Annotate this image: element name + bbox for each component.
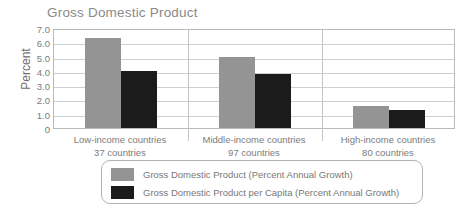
x-category-label: Low-income countries37 countries (53, 133, 187, 159)
bar (85, 38, 121, 128)
y-tick-label: 6.0 (24, 38, 50, 49)
x-category-sublabel: 37 countries (53, 146, 187, 159)
legend-swatch-gdp-per-capita (111, 186, 134, 199)
group-separator (322, 30, 323, 141)
plot-area (53, 29, 455, 129)
y-tick-label: 4.0 (24, 66, 50, 77)
group-separator (188, 30, 189, 141)
x-category-sublabel: 97 countries (187, 146, 321, 159)
y-tick-label: 7.0 (24, 24, 50, 35)
legend-item-gdp-per-capita: Gross Domestic Product per Capita (Perce… (111, 184, 399, 200)
bar (353, 106, 389, 128)
y-tick-label: 1.0 (24, 109, 50, 120)
legend-label-gdp-per-capita: Gross Domestic Product per Capita (Perce… (143, 187, 399, 198)
y-tick-label: 2.0 (24, 95, 50, 106)
bar (255, 74, 291, 128)
legend-swatch-gdp (111, 168, 134, 181)
y-axis-tick-labels: 7.06.05.04.03.02.01.00 (22, 29, 50, 129)
x-category-name: High-income countries (341, 134, 436, 145)
y-tick-label: 5.0 (24, 52, 50, 63)
x-category-name: Middle-income countries (203, 134, 306, 145)
legend-label-gdp: Gross Domestic Product (Percent Annual G… (143, 169, 353, 180)
x-category-label: Middle-income countries97 countries (187, 133, 321, 159)
y-tick-label: 3.0 (24, 81, 50, 92)
bar (121, 71, 157, 128)
x-category-label: High-income countries80 countries (321, 133, 455, 159)
legend: Gross Domestic Product (Percent Annual G… (101, 160, 423, 204)
y-tick-label: 0 (24, 124, 50, 135)
x-category-sublabel: 80 countries (321, 146, 455, 159)
legend-item-gdp: Gross Domestic Product (Percent Annual G… (111, 166, 353, 182)
gdp-bar-chart-figure: Gross Domestic Product Percent 7.06.05.0… (0, 0, 474, 216)
bar (219, 57, 255, 128)
x-category-name: Low-income countries (74, 134, 166, 145)
bar (389, 110, 425, 128)
chart-title: Gross Domestic Product (47, 5, 198, 20)
